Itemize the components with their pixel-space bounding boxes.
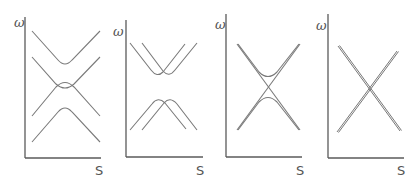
panel-4-x-label: S — [397, 163, 405, 178]
panel-2-x-label: S — [196, 163, 204, 178]
panel-1-lower-branch — [32, 108, 100, 142]
dispersion-figure: ω S ω S — [0, 0, 418, 181]
panel-1-middle-upper-branch — [32, 57, 100, 88]
panel-4-y-label: ω — [316, 18, 327, 33]
panel-2-y-label: ω — [113, 24, 124, 39]
panel-3: ω S — [215, 14, 304, 178]
panel-1-y-label: ω — [14, 15, 25, 30]
panel-3-lower-hyperbola — [238, 98, 299, 131]
panel-3-x-label: S — [296, 163, 304, 178]
panel-4: ω S — [316, 14, 405, 178]
panel-1-x-label: S — [95, 163, 103, 178]
panel-1: ω S — [14, 15, 103, 178]
panel-3-y-label: ω — [215, 17, 226, 32]
panel-4-line-ascending-b — [339, 52, 399, 133]
panel-4-line-ascending-a — [337, 51, 397, 132]
panel-1-upper-branch — [32, 31, 100, 64]
panel-2-lower-branch-b — [142, 100, 197, 130]
panel-3-upper-hyperbola — [238, 44, 299, 77]
panel-2: ω S — [113, 20, 204, 178]
panel-2-upper-branch-a — [130, 43, 185, 75]
